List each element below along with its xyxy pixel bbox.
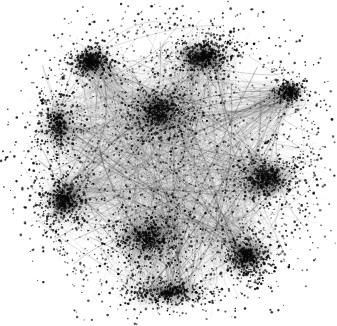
- network-graph-visualization: [0, 0, 337, 326]
- network-graph-canvas: [0, 0, 337, 326]
